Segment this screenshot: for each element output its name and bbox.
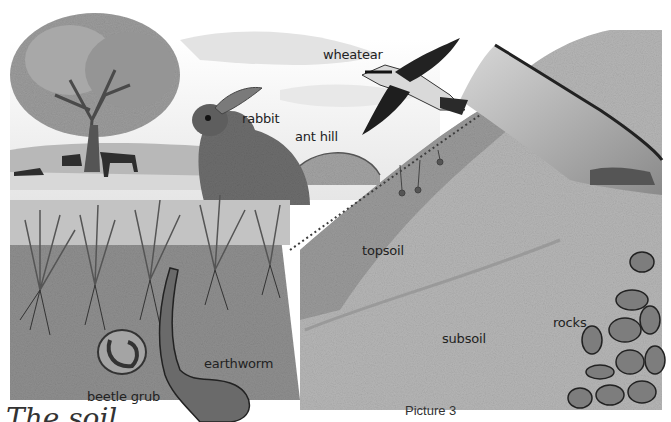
label-ant-hill: ant hill — [295, 129, 338, 144]
label-wheatear: wheatear — [323, 47, 383, 62]
label-topsoil: topsoil — [362, 243, 404, 258]
beetle-grub — [98, 330, 146, 374]
label-subsoil: subsoil — [442, 331, 486, 346]
picture-caption: Picture 3 — [405, 403, 456, 418]
soil-illustration — [0, 0, 671, 422]
label-rabbit: rabbit — [242, 111, 279, 126]
label-rocks: rocks — [553, 315, 586, 330]
distant-field — [10, 143, 230, 190]
section-title: The soil — [6, 402, 117, 422]
label-earthworm: earthworm — [204, 356, 273, 371]
